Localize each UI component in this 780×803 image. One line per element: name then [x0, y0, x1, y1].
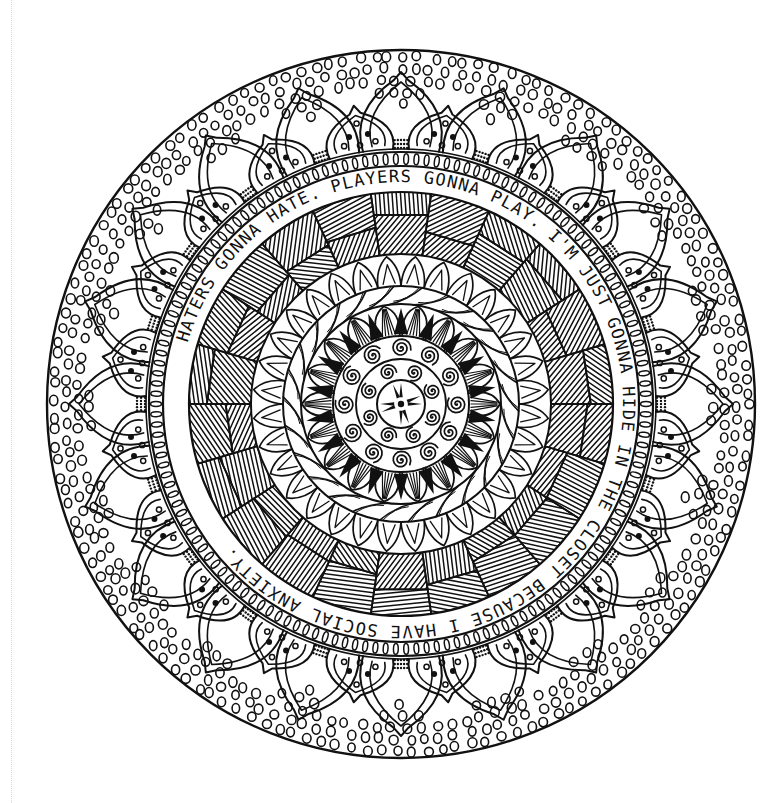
center-dot: [398, 401, 404, 407]
small-circle: [549, 686, 557, 695]
small-circle: [115, 559, 123, 569]
small-circle: [359, 719, 368, 729]
oval-link: [274, 610, 284, 622]
stipple-dot: [649, 477, 651, 479]
oval-link: [473, 631, 481, 643]
small-circle: [533, 79, 540, 88]
small-circle: [53, 347, 62, 358]
small-circle: [117, 605, 125, 615]
stipple-dot: [184, 250, 186, 252]
small-circle: [61, 402, 69, 411]
small-circle: [326, 726, 335, 736]
small-circle: [594, 127, 602, 136]
small-circle: [90, 236, 98, 246]
small-circle: [62, 376, 70, 385]
small-circle: [164, 174, 171, 185]
small-circle: [653, 166, 660, 175]
oval-link: [501, 176, 510, 188]
small-circle: [346, 78, 354, 88]
petal-dot-outline: [141, 345, 146, 350]
stipple-dot: [191, 558, 193, 560]
oval-link: [156, 451, 168, 458]
small-circle: [539, 717, 548, 726]
small-circle: [348, 730, 356, 740]
oval-link: [552, 210, 563, 221]
small-circle: [232, 690, 239, 699]
small-circle: [361, 732, 369, 742]
stipple-dot: [247, 613, 249, 615]
small-circle: [738, 341, 747, 351]
small-circle: [205, 675, 212, 685]
stipple-dot: [483, 157, 485, 159]
spiral: [393, 339, 411, 355]
oval-link: [186, 272, 198, 282]
small-circle: [524, 103, 533, 112]
stipple-dot: [660, 397, 662, 399]
small-circle: [144, 219, 153, 228]
oval-link: [256, 599, 266, 611]
stipple-dot: [321, 151, 323, 153]
small-circle: [614, 158, 622, 169]
spiral: [335, 397, 353, 413]
oval-link: [623, 490, 635, 498]
small-circle: [213, 651, 220, 661]
petal-dot-outline: [136, 427, 141, 432]
scallop: [517, 404, 549, 427]
oval-link: [164, 319, 176, 327]
small-circle: [182, 639, 190, 649]
oval-link: [623, 310, 635, 318]
small-circle: [92, 260, 100, 269]
small-circle: [459, 71, 466, 80]
stipple-dot: [555, 616, 557, 618]
stipple-dot: [136, 406, 138, 408]
small-circle: [297, 68, 306, 77]
oval-link: [492, 624, 501, 636]
small-circle: [348, 743, 355, 752]
petal-dot: [151, 286, 157, 292]
small-circle: [306, 78, 314, 87]
petal-dot-outline: [626, 268, 631, 273]
small-circle: [487, 114, 495, 125]
small-circle: [252, 689, 261, 699]
stipple-dot: [240, 193, 242, 195]
stipple-dot: [550, 191, 552, 193]
stipple-dot: [244, 611, 246, 613]
stipple-dot: [646, 319, 648, 321]
small-circle: [374, 53, 382, 62]
stipple-dot: [316, 157, 318, 159]
oval-link: [635, 350, 647, 357]
small-circle: [550, 115, 558, 125]
small-circle: [497, 103, 504, 113]
small-circle: [96, 572, 105, 581]
small-circle: [374, 732, 382, 743]
small-circle: [125, 226, 133, 235]
petal-dot-outline: [293, 643, 298, 648]
small-circle: [153, 167, 162, 177]
stipple-dot: [184, 555, 186, 557]
small-circle: [64, 359, 72, 369]
oval-link: [151, 402, 162, 407]
small-circle: [205, 688, 213, 698]
stipple-dot: [647, 483, 649, 485]
small-circle: [518, 700, 526, 711]
oval-link: [638, 370, 649, 376]
small-circle: [714, 258, 722, 267]
small-circle: [335, 83, 342, 94]
small-circle: [468, 738, 477, 748]
stipple-dot: [140, 409, 142, 411]
oval-link: [383, 154, 388, 165]
oval-link: [593, 543, 605, 553]
small-circle: [699, 228, 708, 238]
petal-dot-outline: [293, 159, 298, 164]
petal-dot-outline: [527, 654, 532, 659]
oval-link: [536, 197, 546, 209]
stipple-dot: [149, 321, 151, 323]
stipple-dot: [664, 400, 666, 402]
petal-dot: [636, 533, 642, 539]
small-circle: [626, 659, 634, 668]
rope-strand-line: [502, 384, 518, 407]
oval-link: [283, 181, 292, 193]
small-circle: [651, 179, 660, 189]
small-circle: [105, 263, 113, 273]
petal-dot-outline: [118, 357, 123, 362]
